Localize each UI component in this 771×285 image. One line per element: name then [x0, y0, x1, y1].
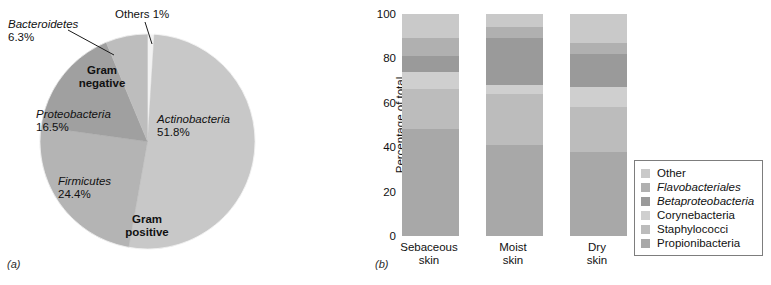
x-tick-sebaceous-line2: skin — [419, 254, 439, 266]
legend-label-flavobacteriales: Flavobacteriales — [657, 181, 741, 193]
legend-label-propionibacteria: Propionibacteria — [657, 237, 740, 249]
pie-label-bacteroidetes-name: Bacteroidetes — [8, 18, 78, 30]
y-tick-80: 80 — [356, 52, 396, 64]
pie-label-firmicutes-name: Firmicutes — [58, 175, 111, 187]
y-tick-60: 60 — [356, 97, 396, 109]
bar-moist-skin — [486, 14, 543, 236]
pie-label-bacteroidetes: Bacteroidetes 6.3% — [8, 18, 78, 43]
panel-label-a: (a) — [7, 258, 20, 270]
x-tick-dry-line2: skin — [587, 254, 607, 266]
pie-label-proteobacteria-name: Proteobacteria — [36, 108, 111, 120]
bar-segment-staphylococci — [402, 89, 459, 129]
legend-swatch-corynebacteria — [641, 211, 650, 220]
bar-segment-corynebacteria — [486, 85, 543, 94]
bar-segment-flavobacteriales — [486, 27, 543, 38]
pie-label-firmicutes: Firmicutes 24.4% — [58, 175, 111, 200]
pie-label-proteobacteria-pct: 16.5% — [36, 121, 69, 133]
legend-item-betaproteobacteria: Betaproteobacteria — [641, 194, 754, 208]
legend-swatch-betaproteobacteria — [641, 197, 650, 206]
gram-positive-line2: positive — [125, 226, 168, 238]
bar-segment-staphylococci — [486, 94, 543, 145]
bar-segment-flavobacteriales — [570, 43, 627, 54]
panel-a-pie-chart: Others 1% Bacteroidetes 6.3% Gram negati… — [0, 0, 362, 285]
pie-label-proteobacteria: Proteobacteria 16.5% — [36, 108, 111, 133]
y-tick-40: 40 — [356, 141, 396, 153]
legend-label-corynebacteria: Corynebacteria — [657, 209, 735, 221]
x-tick-sebaceous-line1: Sebaceous — [400, 241, 458, 253]
bar-segment-other — [486, 14, 543, 27]
bar-segment-betaproteobacteria — [570, 54, 627, 87]
chart-legend: OtherFlavobacterialesBetaproteobacteriaC… — [634, 160, 763, 256]
panel-b-bar-chart: Percentage of total 100806040200 Sebaceo… — [362, 0, 771, 285]
x-tick-moist-line2: skin — [503, 254, 523, 266]
pie-group-label-gram-negative: Gram negative — [59, 64, 145, 89]
legend-swatch-staphylococci — [641, 225, 650, 234]
legend-label-betaproteobacteria: Betaproteobacteria — [657, 195, 754, 207]
bar-segment-propionibacteria — [402, 129, 459, 236]
bar-sebaceous-skin — [402, 14, 459, 236]
bar-plot-area: Percentage of total 100806040200 — [402, 14, 627, 236]
legend-swatch-other — [641, 169, 650, 178]
legend-swatch-flavobacteriales — [641, 183, 650, 192]
bar-segment-betaproteobacteria — [486, 38, 543, 85]
legend-item-corynebacteria: Corynebacteria — [641, 208, 754, 222]
bar-segment-corynebacteria — [570, 87, 627, 107]
gram-negative-line1: Gram — [87, 64, 117, 76]
bar-segment-propionibacteria — [570, 152, 627, 236]
pie-group-label-gram-positive: Gram positive — [104, 213, 190, 238]
legend-item-propionibacteria: Propionibacteria — [641, 236, 754, 250]
bar-segment-propionibacteria — [486, 145, 543, 236]
panel-label-b: (b) — [375, 258, 388, 270]
legend-label-other: Other — [657, 167, 686, 179]
pie-label-actinobacteria-pct: 51.8% — [157, 126, 190, 138]
legend-label-staphylococci: Staphylococci — [657, 223, 728, 235]
bar-segment-other — [570, 14, 627, 43]
x-tick-dry-line1: Dry — [588, 241, 606, 253]
pie-label-others: Others 1% — [115, 8, 169, 21]
legend-item-staphylococci: Staphylococci — [641, 222, 754, 236]
bar-segment-betaproteobacteria — [402, 56, 459, 72]
y-tick-100: 100 — [356, 8, 396, 20]
legend-swatch-propionibacteria — [641, 239, 650, 248]
bar-segment-corynebacteria — [402, 72, 459, 90]
y-tick-20: 20 — [356, 186, 396, 198]
gram-positive-line1: Gram — [132, 213, 162, 225]
pie-label-actinobacteria: Actinobacteria 51.8% — [157, 113, 230, 138]
legend-item-other: Other — [641, 166, 754, 180]
x-tick-moist-line1: Moist — [499, 241, 526, 253]
gram-negative-line2: negative — [79, 77, 126, 89]
pie-label-actinobacteria-name: Actinobacteria — [157, 113, 230, 125]
bar-segment-other — [402, 14, 459, 38]
bar-dry-skin — [570, 14, 627, 236]
bar-segment-flavobacteriales — [402, 38, 459, 56]
pie-label-others-text: Others 1% — [115, 8, 169, 20]
pie-label-firmicutes-pct: 24.4% — [58, 188, 91, 200]
legend-item-flavobacteriales: Flavobacteriales — [641, 180, 754, 194]
bar-segment-staphylococci — [570, 107, 627, 151]
pie-label-bacteroidetes-pct: 6.3% — [8, 31, 34, 43]
